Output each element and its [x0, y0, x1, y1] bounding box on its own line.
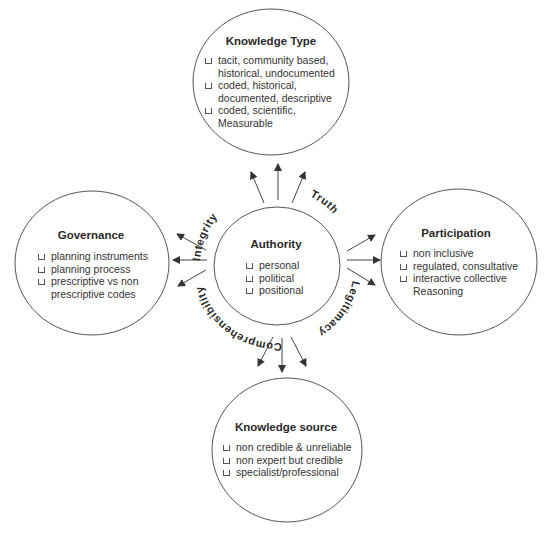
checkbox-icon	[400, 251, 407, 257]
list-item: coded, historical, documented, descripti…	[205, 79, 335, 104]
list-item: positional	[246, 284, 303, 297]
list-item: tacit, community based, historical, undo…	[205, 54, 335, 79]
list-item: non credible & unreliable	[223, 441, 352, 454]
list-item: non inclusive	[400, 247, 518, 260]
checkbox-icon	[223, 445, 230, 451]
governance-title: Governance	[58, 229, 124, 241]
checkbox-icon	[400, 264, 407, 270]
arrows-right	[347, 235, 380, 285]
list-item: interactive collective Reasoning	[400, 272, 518, 297]
checkbox-icon	[223, 458, 230, 464]
checkbox-icon	[205, 83, 212, 89]
checkbox-icon	[246, 276, 253, 282]
knowledge-type-list: tacit, community based, historical, undo…	[205, 54, 335, 129]
checkbox-icon	[246, 288, 253, 294]
knowledge-source-list: non credible & unreliable non expert but…	[223, 441, 352, 479]
arrows-up	[251, 164, 305, 203]
knowledge-type-title: Knowledge Type	[226, 35, 317, 47]
list-item: planning instruments	[38, 250, 148, 263]
checkbox-icon	[246, 263, 253, 269]
truth-label: Truth	[309, 187, 341, 215]
list-item: coded, scientific, Measurable	[205, 104, 335, 129]
checkbox-icon	[38, 267, 45, 273]
checkbox-icon	[205, 108, 212, 114]
knowledge-source-title: Knowledge source	[235, 421, 337, 433]
checkbox-icon	[38, 254, 45, 260]
checkbox-icon	[205, 58, 212, 64]
list-item: regulated, consultative	[400, 260, 518, 273]
participation-title: Participation	[421, 227, 491, 239]
list-item: planning process	[38, 263, 148, 276]
list-item: non expert but credible	[223, 454, 352, 467]
list-item: prescriptive vs non prescriptive codes	[38, 275, 148, 300]
authority-title: Authority	[250, 238, 301, 250]
checkbox-icon	[400, 276, 407, 282]
legitimacy-label: Legitimacy	[316, 280, 362, 340]
participation-list: non inclusive regulated, consultative in…	[400, 247, 518, 297]
list-item: specialist/professional	[223, 466, 352, 479]
checkbox-icon	[223, 470, 230, 476]
list-item: personal	[246, 259, 303, 272]
authority-list: personal political positional	[246, 259, 303, 297]
list-item: political	[246, 272, 303, 285]
checkbox-icon	[38, 279, 45, 285]
governance-list: planning instruments planning process pr…	[38, 250, 148, 300]
